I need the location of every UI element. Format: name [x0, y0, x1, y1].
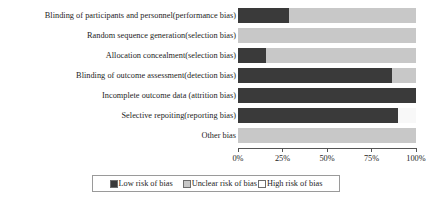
legend-item-high[interactable]: High risk of bias [258, 179, 323, 189]
bar-segment-unclear [266, 48, 416, 63]
bar-segment-high [398, 108, 416, 123]
bar-segment-unclear [238, 28, 416, 43]
bar-segment-unclear [289, 8, 416, 23]
x-axis-tick [327, 148, 328, 152]
stacked-bar [238, 68, 416, 83]
x-axis-tick [416, 148, 417, 152]
bar-row-label: Incomplete outcome data (attrition bias) [0, 91, 236, 101]
x-axis-tick [238, 148, 239, 152]
x-axis-tick-label: 50% [319, 154, 334, 164]
x-axis: 0%25%50%75%100% [238, 148, 416, 149]
bar-row: Allocation concealment(selection bias) [0, 48, 432, 63]
stacked-bar [238, 8, 416, 23]
x-axis-tick-label: 75% [364, 154, 379, 164]
legend-swatch-low-icon [110, 180, 118, 188]
bar-row: Other bias [0, 128, 432, 143]
bar-segment-low [238, 68, 392, 83]
bar-segment-unclear [392, 68, 416, 83]
bar-segment-low [238, 48, 266, 63]
x-axis-tick [282, 148, 283, 152]
chart-legend: Low risk of biasUnclear risk of biasHigh… [92, 175, 340, 192]
legend-label: Unclear risk of bias [192, 179, 257, 189]
x-axis-tick [371, 148, 372, 152]
bar-row-label: Random sequence generation(selection bia… [0, 31, 236, 41]
x-axis-tick-label: 100% [406, 154, 425, 164]
legend-item-unclear[interactable]: Unclear risk of bias [183, 179, 257, 189]
bar-row-label: Other bias [0, 131, 236, 141]
bar-segment-unclear [238, 128, 416, 143]
legend-swatch-high-icon [258, 180, 266, 188]
bar-row-label: Allocation concealment(selection bias) [0, 51, 236, 61]
bar-rows: Blinding of participants and personnel(p… [0, 8, 432, 148]
bar-row-label: Selective repoiting(reporting bias) [0, 111, 236, 121]
stacked-bar [238, 48, 416, 63]
bar-row: Blinding of outcome assessment(detection… [0, 68, 432, 83]
stacked-bar [238, 108, 416, 123]
stacked-bar [238, 28, 416, 43]
legend-item-low[interactable]: Low risk of bias [110, 179, 173, 189]
risk-of-bias-chart: Blinding of participants and personnel(p… [0, 0, 432, 208]
legend-swatch-unclear-icon [183, 180, 191, 188]
bar-segment-low [238, 88, 416, 103]
stacked-bar [238, 128, 416, 143]
bar-row-label: Blinding of participants and personnel(p… [0, 11, 236, 21]
bar-row-label: Blinding of outcome assessment(detection… [0, 71, 236, 81]
stacked-bar [238, 88, 416, 103]
x-axis-tick-label: 0% [232, 154, 243, 164]
bar-segment-low [238, 8, 289, 23]
bar-row: Random sequence generation(selection bia… [0, 28, 432, 43]
bar-row: Incomplete outcome data (attrition bias) [0, 88, 432, 103]
bar-row: Blinding of participants and personnel(p… [0, 8, 432, 23]
bar-row: Selective repoiting(reporting bias) [0, 108, 432, 123]
bar-segment-low [238, 108, 398, 123]
x-axis-tick-label: 25% [275, 154, 290, 164]
legend-label: High risk of bias [267, 179, 323, 189]
legend-label: Low risk of bias [119, 179, 173, 189]
